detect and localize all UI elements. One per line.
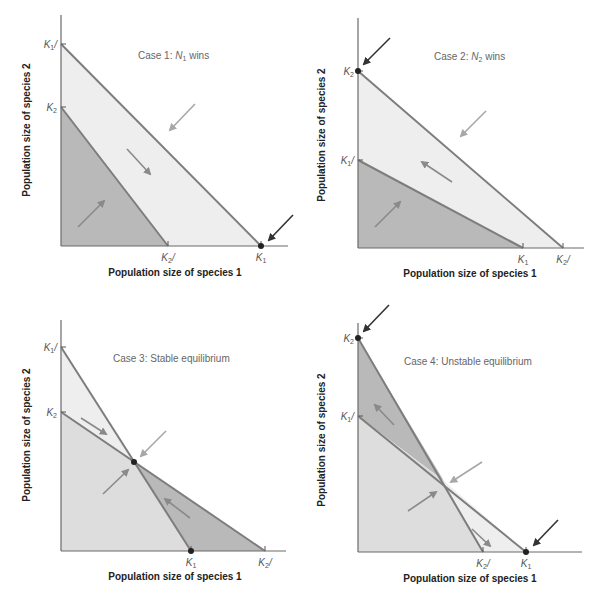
trajectory-arrow-icon (461, 111, 486, 136)
y-tick-label: K2 (46, 102, 57, 114)
y-tick-label: K1/ (341, 411, 356, 423)
x-axis-label: Population size of species 1 (108, 571, 242, 582)
panel-title: Case 1: N1 wins (138, 50, 209, 62)
panel-case-3: K1/K2K1K2/Case 3: Stable equilibriumPopu… (21, 320, 286, 582)
equilibrium-point (188, 548, 194, 554)
region-1 (61, 412, 191, 551)
trajectory-arrow-icon (269, 215, 293, 240)
x-tick-label: K1 (518, 254, 529, 266)
panel-case-2: K2K1/K1K2/Case 2: N2 winsPopulation size… (316, 18, 584, 279)
panel-title: Case 4: Unstable equilibrium (404, 356, 532, 367)
x-tick-label: K1 (256, 252, 267, 264)
x-tick-label: K2/ (476, 558, 491, 570)
x-tick-label: K2/ (161, 252, 176, 264)
equilibrium-point (258, 243, 264, 249)
y-tick-label: K1/ (341, 155, 356, 167)
y-axis-label: Population size of species 2 (316, 68, 327, 202)
trajectory-arrow-icon (364, 305, 389, 331)
y-tick-label: K2 (343, 333, 354, 345)
equilibrium-point (131, 459, 137, 465)
y-tick-label: K2 (46, 407, 57, 419)
y-axis-label: Population size of species 2 (316, 373, 327, 507)
trajectory-arrow-icon (170, 104, 195, 130)
y-axis-label: Population size of species 2 (21, 63, 32, 197)
trajectory-arrow-icon (534, 520, 558, 545)
region-1 (358, 416, 483, 552)
x-axis-label: Population size of species 1 (403, 573, 537, 584)
panel-title: Case 3: Stable equilibrium (113, 353, 230, 364)
x-axis-label: Population size of species 1 (108, 267, 242, 278)
y-tick-label: K2 (343, 66, 354, 78)
equilibrium-point (523, 549, 529, 555)
trajectory-arrow-icon (141, 431, 166, 456)
y-tick-label: K1/ (44, 39, 59, 51)
equilibrium-point (355, 335, 361, 341)
panel-case-1: K1/K2K2/K1Case 1: N1 winsPopulation size… (21, 15, 293, 278)
y-axis-label: Population size of species 2 (21, 368, 32, 502)
trajectory-arrow-icon (364, 38, 390, 64)
x-tick-label: K2/ (556, 254, 571, 266)
x-tick-label: K2/ (258, 557, 273, 569)
x-tick-label: K1 (186, 557, 197, 569)
trajectory-arrow-icon (451, 462, 482, 482)
x-tick-label: K1 (521, 558, 532, 570)
panel-case-4: K2K1/K2/K1Case 4: Unstable equilibriumPo… (316, 305, 582, 584)
y-tick-label: K1/ (44, 342, 59, 354)
equilibrium-point (355, 68, 361, 74)
competition-isocline-figure: K1/K2K2/K1Case 1: N1 winsPopulation size… (0, 0, 605, 598)
panel-title: Case 2: N2 wins (434, 51, 505, 63)
x-axis-label: Population size of species 1 (403, 268, 537, 279)
